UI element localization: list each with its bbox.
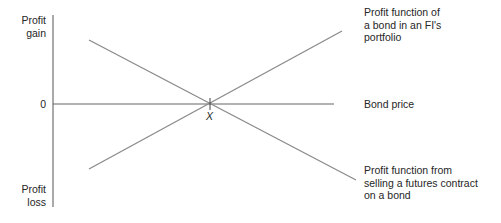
bond-profit-function-label: Profit function of a bond in an FI's por…: [364, 6, 441, 44]
profit-loss-label: Profit loss: [8, 183, 46, 208]
bond-profit-line: [89, 31, 342, 169]
short-futures-profit-line: [89, 40, 356, 180]
intersection-x-label: X: [206, 110, 213, 123]
profit-gain-label: Profit gain: [8, 14, 46, 39]
zero-label: 0: [20, 98, 46, 111]
bond-price-label: Bond price: [364, 98, 414, 111]
profit-hedge-diagram: Profit gain 0 Profit loss X Bond price P…: [0, 0, 501, 223]
short-futures-profit-function-label: Profit function from selling a futures c…: [364, 164, 478, 202]
